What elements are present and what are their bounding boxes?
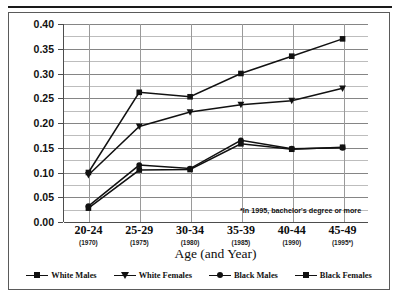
legend-item[interactable]: Black Males <box>209 271 278 280</box>
chart-legend: White MalesWhite FemalesBlack MalesBlack… <box>8 266 390 284</box>
y-axis-tick-label: 0.05 <box>10 192 54 202</box>
data-point <box>340 36 346 42</box>
legend-square-icon <box>303 272 309 278</box>
figure-page: 0.000.050.100.150.200.250.300.350.40 20-… <box>0 0 398 298</box>
data-point <box>136 90 142 96</box>
y-axis-tick-label: 0.20 <box>10 118 54 128</box>
legend-label: White Females <box>139 271 192 280</box>
data-point <box>340 144 346 150</box>
data-point <box>136 167 142 173</box>
y-axis-tick-mark <box>58 197 63 198</box>
series-line <box>88 88 342 175</box>
y-axis-tick-mark <box>58 148 63 149</box>
x-axis-title: Age (and Year) <box>63 246 368 262</box>
y-axis-tick-label: 0.35 <box>10 44 54 54</box>
legend-square-icon <box>34 272 40 278</box>
data-point <box>85 172 92 178</box>
series-line <box>88 39 342 173</box>
legend-item[interactable]: White Females <box>114 271 192 280</box>
data-point <box>289 53 295 59</box>
chart-container: 0.000.050.100.150.200.250.300.350.40 20-… <box>0 0 398 298</box>
data-point <box>187 94 193 100</box>
legend-marker-icon <box>114 271 136 280</box>
y-axis-tick-label: 0.10 <box>10 168 54 178</box>
legend-circle-icon <box>217 272 223 278</box>
x-tick-age: 45-49 <box>308 224 378 236</box>
y-axis-tick-label: 0.00 <box>10 217 54 227</box>
legend-label: Black Females <box>320 271 372 280</box>
x-axis-line <box>64 222 368 223</box>
data-point <box>289 146 295 152</box>
data-point <box>238 71 244 77</box>
y-axis-tick-label: 0.40 <box>10 19 54 29</box>
y-axis-tick-mark <box>58 123 63 124</box>
legend-label: White Males <box>51 271 96 280</box>
legend-item[interactable]: Black Females <box>295 271 372 280</box>
y-axis-tick-mark <box>58 74 63 75</box>
legend-marker-icon <box>209 271 231 280</box>
data-point <box>86 205 92 211</box>
data-point <box>136 162 142 168</box>
legend-triangle-icon <box>121 272 129 279</box>
legend-label: Black Males <box>234 271 278 280</box>
data-point <box>187 167 193 173</box>
legend-marker-icon <box>26 271 48 280</box>
data-series <box>85 85 346 178</box>
legend-item[interactable]: White Males <box>26 271 96 280</box>
y-axis-tick-mark <box>58 98 63 99</box>
y-axis-tick-label: 0.30 <box>10 69 54 79</box>
y-axis-tick-mark <box>58 24 63 25</box>
y-axis-tick-label: 0.15 <box>10 143 54 153</box>
data-point <box>238 141 244 147</box>
y-axis-tick-mark <box>58 49 63 50</box>
chart-footnote: *In 1995, bachelor's degree or more <box>240 206 361 215</box>
series-layer <box>63 24 368 222</box>
y-axis-tick-label: 0.25 <box>10 93 54 103</box>
y-axis-tick-mark <box>58 173 63 174</box>
legend-marker-icon <box>295 271 317 280</box>
y-axis-tick-mark <box>58 222 63 223</box>
series-line <box>88 140 342 206</box>
